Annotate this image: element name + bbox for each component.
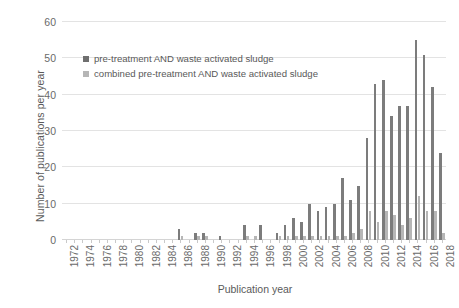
x-tick-mark-1983	[156, 240, 157, 243]
gridline-30	[62, 130, 446, 131]
x-axis-tick-labels: 1972197419761978198019821984198619881990…	[62, 240, 446, 284]
x-tick-label-1998: 1998	[283, 245, 293, 267]
x-tick-mark-1992	[229, 240, 230, 243]
x-tick-mark-1999	[287, 240, 288, 243]
x-tick-mark-2000	[295, 240, 296, 243]
x-tick-mark-1985	[172, 240, 173, 243]
gridline-10	[62, 203, 446, 204]
bar-pre-treatment-1996	[259, 225, 262, 240]
legend-item-combined: combined pre-treatment AND waste activat…	[83, 68, 318, 79]
legend-item-pre-treatment: pre-treatment AND waste activated sludge	[83, 53, 318, 64]
bar-combined-2012	[393, 215, 396, 240]
x-tick-label-1976: 1976	[103, 245, 113, 267]
x-tick-mark-1981	[140, 240, 141, 243]
x-tick-mark-1984	[164, 240, 165, 243]
x-tick-mark-1986	[180, 240, 181, 243]
bar-combined-2016	[426, 211, 429, 240]
y-tick-10: 10	[44, 198, 56, 209]
x-tick-mark-1994	[246, 240, 247, 243]
x-tick-label-2010: 2010	[381, 245, 391, 267]
legend-label-combined: combined pre-treatment AND waste activat…	[94, 68, 318, 79]
bar-combined-2017	[434, 211, 437, 240]
x-tick-mark-2009	[368, 240, 369, 243]
x-tick-label-2000: 2000	[299, 245, 309, 267]
x-tick-mark-1989	[205, 240, 206, 243]
x-tick-mark-1997	[270, 240, 271, 243]
x-tick-label-1974: 1974	[86, 245, 96, 267]
bar-combined-2009	[369, 211, 372, 240]
y-axis-tick-labels: 0102030405060	[0, 22, 56, 240]
bar-pre-treatment-2004	[325, 207, 328, 240]
x-tick-label-1982: 1982	[152, 245, 162, 267]
x-tick-mark-2011	[385, 240, 386, 243]
bar-combined-2010	[377, 222, 380, 240]
x-tick-mark-1993	[238, 240, 239, 243]
x-tick-mark-1990	[213, 240, 214, 243]
x-tick-mark-1980	[131, 240, 132, 243]
x-tick-mark-2016	[426, 240, 427, 243]
bar-combined-2014	[409, 218, 412, 240]
bar-combined-2018	[442, 233, 445, 240]
y-tick-20: 20	[44, 162, 56, 173]
y-tick-40: 40	[44, 89, 56, 100]
x-tick-label-1988: 1988	[201, 245, 211, 267]
x-tick-label-2002: 2002	[315, 245, 325, 267]
bar-combined-2011	[385, 211, 388, 240]
x-tick-label-1972: 1972	[70, 245, 80, 267]
gridline-60	[62, 21, 446, 22]
x-tick-label-2008: 2008	[364, 245, 374, 267]
x-axis-title: Publication year	[60, 283, 450, 295]
x-tick-label-1980: 1980	[135, 245, 145, 267]
bar-pre-treatment-2005	[333, 204, 336, 240]
x-tick-mark-1975	[91, 240, 92, 243]
x-tick-mark-1976	[99, 240, 100, 243]
x-tick-label-1996: 1996	[266, 245, 276, 267]
publication-year-bar-chart: Number of publications per year 01020304…	[0, 0, 459, 308]
x-tick-mark-1982	[148, 240, 149, 243]
x-tick-label-2006: 2006	[348, 245, 358, 267]
x-tick-mark-2002	[311, 240, 312, 243]
x-tick-mark-2004	[328, 240, 329, 243]
x-tick-label-1994: 1994	[250, 245, 260, 267]
legend-swatch-dark-icon	[83, 56, 89, 62]
x-tick-label-1990: 1990	[217, 245, 227, 267]
y-tick-50: 50	[44, 53, 56, 64]
x-tick-mark-1987	[189, 240, 190, 243]
y-tick-0: 0	[50, 235, 56, 246]
x-tick-label-2012: 2012	[397, 245, 407, 267]
x-tick-mark-1998	[279, 240, 280, 243]
x-tick-mark-1996	[262, 240, 263, 243]
x-tick-mark-2017	[434, 240, 435, 243]
y-tick-30: 30	[44, 126, 56, 137]
bar-combined-2008	[360, 229, 363, 240]
x-tick-mark-2013	[401, 240, 402, 243]
x-tick-mark-1991	[221, 240, 222, 243]
x-tick-mark-2010	[377, 240, 378, 243]
x-tick-label-1992: 1992	[233, 245, 243, 267]
x-tick-label-2004: 2004	[332, 245, 342, 267]
x-tick-mark-1988	[197, 240, 198, 243]
legend-label-pre-treatment: pre-treatment AND waste activated sludge	[94, 53, 274, 64]
chart-legend: pre-treatment AND waste activated sludge…	[83, 53, 318, 83]
x-tick-mark-1974	[82, 240, 83, 243]
x-tick-mark-1972	[66, 240, 67, 243]
legend-swatch-light-icon	[83, 71, 89, 77]
x-tick-label-2014: 2014	[413, 245, 423, 267]
bar-pre-treatment-2013	[398, 106, 401, 240]
x-tick-mark-2003	[319, 240, 320, 243]
bar-pre-treatment-2018	[439, 153, 442, 240]
x-tick-mark-2001	[303, 240, 304, 243]
x-tick-mark-2015	[417, 240, 418, 243]
x-tick-mark-2006	[344, 240, 345, 243]
x-tick-mark-2014	[409, 240, 410, 243]
bar-combined-2013	[401, 225, 404, 240]
y-tick-60: 60	[44, 17, 56, 28]
gridline-20	[62, 166, 446, 167]
x-tick-mark-1978	[115, 240, 116, 243]
gridline-40	[62, 94, 446, 95]
x-tick-mark-1995	[254, 240, 255, 243]
x-tick-label-1978: 1978	[119, 245, 129, 267]
x-tick-mark-2005	[336, 240, 337, 243]
x-tick-mark-1979	[123, 240, 124, 243]
x-tick-mark-2008	[360, 240, 361, 243]
